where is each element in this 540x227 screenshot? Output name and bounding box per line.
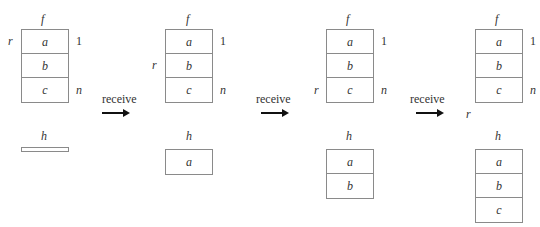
h-label: h	[346, 130, 352, 142]
h-label: h	[186, 130, 192, 142]
h-cell: a	[166, 150, 212, 174]
f-cell: c	[476, 78, 522, 102]
f-label: f	[41, 13, 44, 25]
index-n-label: n	[220, 84, 226, 96]
h-cell: a	[476, 150, 522, 174]
receive-label: receive	[102, 93, 137, 105]
receive-label: receive	[256, 93, 291, 105]
index-n-label: n	[530, 84, 536, 96]
f-cell: a	[22, 30, 68, 54]
f-stack: a b c	[475, 29, 523, 103]
h-cell: c	[476, 198, 522, 222]
r-pointer-label: r	[8, 35, 13, 47]
index-n-label: n	[76, 84, 82, 96]
arrow-right-icon	[102, 112, 124, 114]
f-cell: b	[327, 54, 373, 78]
index-1-label: 1	[381, 35, 387, 47]
h-cell: a	[327, 150, 373, 174]
h-stack: a	[165, 149, 213, 175]
h-empty-stack	[21, 147, 69, 152]
f-cell: b	[476, 54, 522, 78]
f-label: f	[495, 13, 498, 25]
arrow-right-icon	[416, 112, 438, 114]
f-cell: a	[166, 30, 212, 54]
f-cell: b	[166, 54, 212, 78]
f-stack: a b c	[326, 29, 374, 103]
r-pointer-label: r	[152, 59, 157, 71]
r-pointer-label: r	[314, 84, 319, 96]
index-1-label: 1	[220, 35, 226, 47]
f-stack: a b c	[21, 29, 69, 103]
f-cell: b	[22, 54, 68, 78]
h-stack: a b c	[475, 149, 523, 223]
h-cell: b	[327, 174, 373, 198]
f-cell: a	[476, 30, 522, 54]
f-stack: a b c	[165, 29, 213, 103]
receive-label: receive	[410, 93, 445, 105]
index-1-label: 1	[530, 35, 536, 47]
index-1-label: 1	[76, 35, 82, 47]
f-cell: c	[22, 78, 68, 102]
h-stack: a b	[326, 149, 374, 199]
f-cell: c	[166, 78, 212, 102]
h-cell: b	[476, 174, 522, 198]
h-label: h	[495, 130, 501, 142]
h-label: h	[41, 130, 47, 142]
f-label: f	[346, 13, 349, 25]
arrow-right-icon	[261, 112, 283, 114]
r-pointer-label: r	[466, 108, 471, 120]
f-label: f	[186, 13, 189, 25]
f-cell: a	[327, 30, 373, 54]
index-n-label: n	[381, 84, 387, 96]
f-cell: c	[327, 78, 373, 102]
